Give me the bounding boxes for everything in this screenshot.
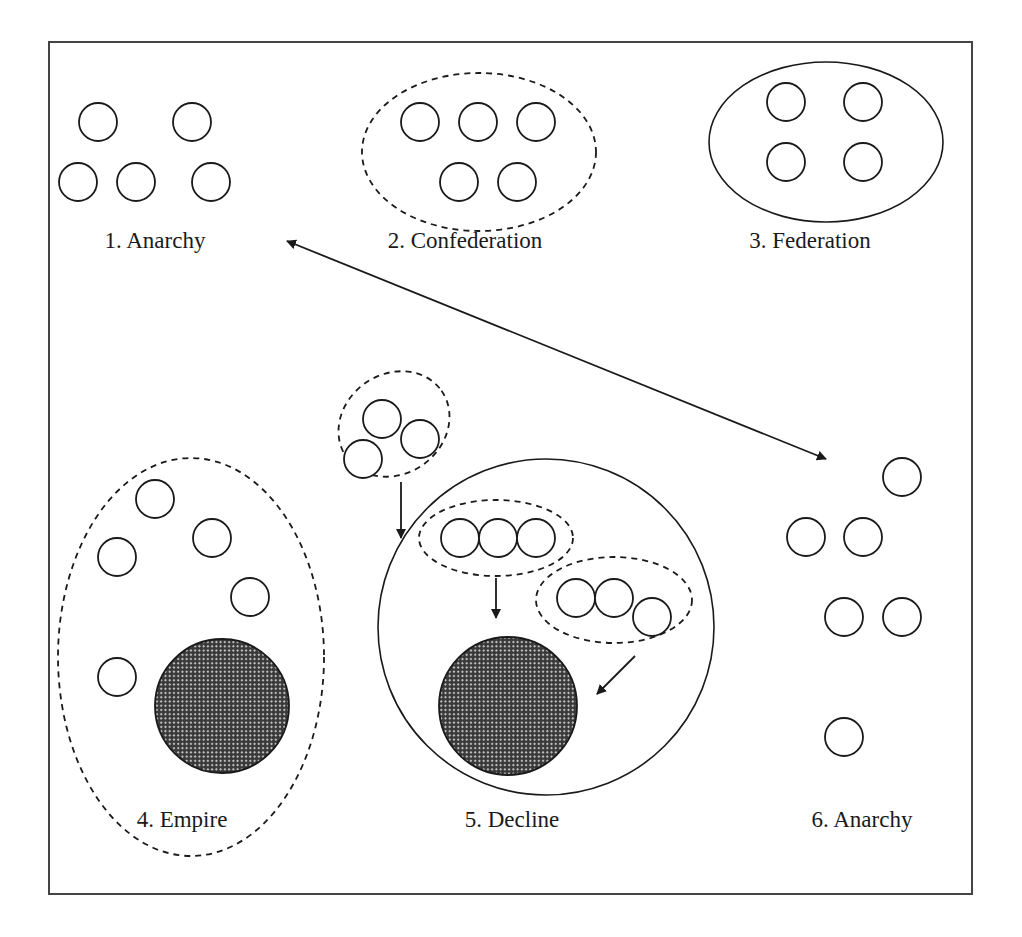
decline-dominant-power: [439, 637, 577, 775]
decline-subgroup-unit: [363, 400, 401, 438]
decline-subgroup-unit: [595, 579, 633, 617]
federation-unit: [767, 83, 805, 121]
federation-unit: [844, 143, 882, 181]
confederation-boundary: [362, 73, 596, 231]
anarchy-1-unit: [173, 103, 211, 141]
confederation-unit: [517, 103, 555, 141]
empire-unit: [231, 578, 269, 616]
decline-subgroup-unit: [441, 519, 479, 557]
confederation-unit: [459, 103, 497, 141]
empire-unit: [136, 480, 174, 518]
decline-subgroup-unit: [517, 519, 555, 557]
federation-boundary: [709, 62, 943, 222]
anarchy-6-unit: [825, 598, 863, 636]
federation-unit: [767, 143, 805, 181]
anarchy-6-unit: [844, 518, 882, 556]
empire-unit: [98, 538, 136, 576]
decline-subgroup-unit: [633, 598, 671, 636]
confederation-unit: [440, 163, 478, 201]
decline-subgroup-unit: [344, 440, 382, 478]
empire-unit: [98, 658, 136, 696]
decline-subgroup-unit: [479, 519, 517, 557]
anarchy-1-unit: [79, 103, 117, 141]
confederation-unit: [401, 103, 439, 141]
anarchy-6-unit: [883, 598, 921, 636]
political-cycle-diagram: 1. Anarchy 2. Confederation 3. Federatio…: [0, 0, 1022, 937]
confederation-unit: [498, 163, 536, 201]
label-confederation: 2. Confederation: [388, 228, 543, 253]
federation-unit: [844, 83, 882, 121]
empire-dominant-power: [155, 639, 289, 773]
anarchy-1-unit: [117, 163, 155, 201]
decline-subgroup-unit: [401, 420, 439, 458]
anarchy-6-unit: [787, 518, 825, 556]
anarchy-6-unit: [883, 458, 921, 496]
anarchy-1-unit: [192, 163, 230, 201]
label-empire: 4. Empire: [137, 807, 228, 832]
secession-arrow-3: [597, 656, 635, 694]
label-anarchy-6: 6. Anarchy: [812, 807, 913, 832]
dominant-powers-layer: [155, 637, 577, 775]
anarchy-1-unit: [59, 163, 97, 201]
anarchy-6-unit: [825, 718, 863, 756]
empire-unit: [193, 519, 231, 557]
decline-subgroup-unit: [557, 579, 595, 617]
label-anarchy-1: 1. Anarchy: [105, 228, 206, 253]
label-federation: 3. Federation: [749, 228, 871, 253]
label-decline: 5. Decline: [465, 807, 560, 832]
